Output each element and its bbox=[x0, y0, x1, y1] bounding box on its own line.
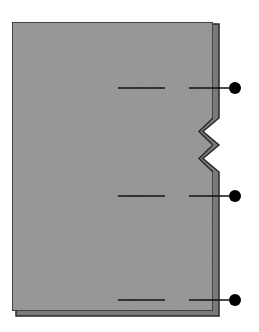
dot-marker-icon bbox=[229, 190, 241, 202]
front-page bbox=[12, 22, 213, 311]
front-page-shape bbox=[12, 22, 213, 311]
page-diagram bbox=[0, 0, 259, 332]
dot-marker-icon bbox=[229, 82, 241, 94]
dot-marker-icon bbox=[229, 294, 241, 306]
